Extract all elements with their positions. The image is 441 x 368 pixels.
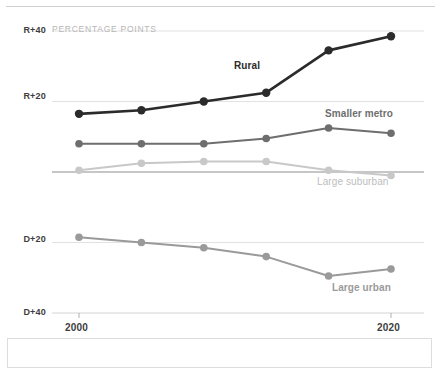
data-point-smaller-metro-2004 [138,140,146,148]
data-point-large-urban-2008 [200,244,208,252]
data-point-large-suburban-2000 [75,166,83,174]
data-point-smaller-metro-2012 [262,135,270,143]
series-lines-group [79,36,391,276]
data-point-rural-2016 [324,46,332,54]
data-point-smaller-metro-2020 [387,129,395,137]
series-line-rural [79,36,391,114]
x-axis-group [52,313,424,318]
series-line-smaller-metro [79,128,391,144]
series-label-large-suburban: Large suburban [317,176,388,187]
data-point-smaller-metro-2008 [200,140,208,148]
chart-subtitle: PERCENTAGE POINTS [52,24,157,34]
series-label-large-urban: Large urban [332,282,391,293]
data-point-large-suburban-2016 [325,166,333,174]
x-axis-tick-2000: 2000 [65,322,88,333]
data-point-large-urban-2020 [387,265,395,273]
data-point-large-suburban-2012 [262,158,270,166]
data-point-smaller-metro-2016 [325,124,333,132]
data-point-large-suburban-2008 [200,158,208,166]
data-point-smaller-metro-2000 [75,140,83,148]
y-axis-label-r40: R+40 [0,25,46,35]
data-point-large-urban-2004 [138,239,146,247]
series-line-large-suburban [79,161,391,175]
x-axis-tick-2020: 2020 [377,322,400,333]
data-point-rural-2004 [137,106,145,114]
y-axis-label-d20: D+20 [0,234,46,244]
data-point-rural-2012 [262,88,270,96]
data-point-large-suburban-2004 [138,159,146,167]
series-label-rural: Rural [234,60,260,71]
data-point-rural-2020 [387,32,395,40]
data-point-large-urban-2000 [75,233,83,241]
data-point-large-urban-2012 [262,253,270,261]
y-axis-label-d40: D+40 [0,307,46,317]
data-point-rural-2008 [200,97,208,105]
series-label-smaller-metro: Smaller metro [325,108,393,119]
footer-panel [7,338,432,368]
data-point-rural-2000 [75,110,83,118]
y-axis-label-r20: R+20 [0,91,46,101]
series-line-large-urban [79,237,391,276]
data-point-large-urban-2016 [325,272,333,280]
